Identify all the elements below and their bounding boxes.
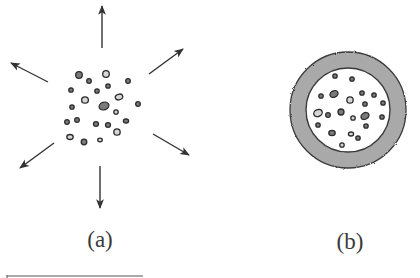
particle — [372, 93, 376, 97]
particle — [326, 113, 331, 118]
particle — [364, 124, 368, 128]
label-b: (b) — [337, 230, 364, 253]
panel-b-shell — [290, 52, 406, 168]
particle — [316, 123, 320, 127]
particle — [380, 115, 384, 119]
arrow-up-right-icon — [149, 49, 183, 74]
particle — [360, 91, 364, 95]
arrow-down-left-icon — [20, 143, 54, 168]
particle — [106, 84, 110, 88]
particle — [381, 101, 385, 105]
particle — [351, 116, 355, 120]
particle — [329, 130, 335, 135]
arrow-down-right-icon — [153, 134, 189, 155]
particle — [136, 102, 141, 107]
particle — [347, 97, 353, 103]
particle — [123, 119, 128, 123]
particle — [65, 120, 70, 125]
particle — [76, 72, 83, 79]
grey-shell — [290, 52, 406, 168]
particle — [95, 89, 99, 93]
particle — [94, 122, 99, 127]
particle — [106, 123, 111, 128]
panel-a-explosion — [11, 6, 189, 208]
particle — [114, 110, 118, 114]
particle — [114, 129, 120, 135]
particle — [75, 118, 80, 123]
particle — [363, 102, 367, 106]
particle — [67, 135, 73, 140]
diagram-canvas: (a) (b) — [0, 0, 420, 278]
particle — [333, 74, 337, 78]
particle — [356, 136, 360, 140]
arrow-up-left-icon — [11, 63, 48, 82]
particle — [70, 105, 74, 109]
particle — [69, 88, 73, 92]
particle-cluster — [65, 71, 141, 145]
particle — [338, 109, 344, 115]
particle — [82, 97, 89, 103]
particle — [98, 138, 103, 142]
particle — [98, 101, 110, 112]
particle — [348, 132, 353, 136]
particle — [350, 77, 354, 81]
particle — [81, 139, 87, 145]
particle — [340, 143, 344, 147]
particle — [115, 93, 124, 100]
particle — [103, 71, 110, 78]
particle — [319, 94, 323, 98]
particle — [87, 79, 92, 84]
particle — [126, 79, 131, 84]
label-a: (a) — [87, 228, 113, 251]
